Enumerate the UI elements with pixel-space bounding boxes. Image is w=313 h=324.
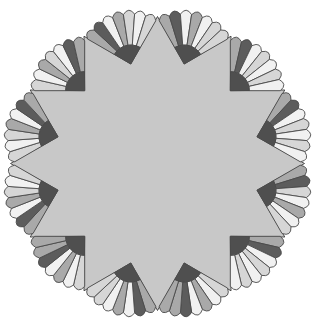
fan-block <box>230 37 284 91</box>
fan-block <box>230 236 284 290</box>
fan-block <box>31 37 85 91</box>
quilt-svg <box>0 0 313 324</box>
fan-block <box>31 236 85 290</box>
quilt-image <box>0 0 313 324</box>
